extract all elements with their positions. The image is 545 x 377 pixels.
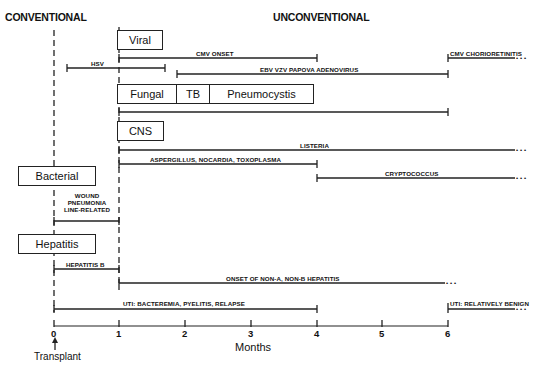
ellipsis-icon: • • •	[516, 175, 526, 182]
pneumonia-line: PNEUMONIA	[54, 199, 120, 206]
ellipsis-icon: • • •	[446, 280, 456, 287]
bacterial-box: Bacterial	[18, 166, 96, 186]
ebv-vzv-label: EBV VZV PAPOVA ADENOVIRUS	[260, 66, 358, 73]
tick-3: 3	[248, 328, 253, 339]
tb-cell: TB	[177, 85, 210, 103]
hepatitis-label: Hepatitis	[36, 238, 79, 250]
non-a-non-b-label: ONSET OF NON-A, NON-B HEPATITIS	[226, 275, 340, 282]
cns-box: CNS	[117, 121, 164, 141]
wound-pneumonia-label: WOUND PNEUMONIA LINE-RELATED	[54, 192, 120, 213]
ellipsis-icon: • • •	[516, 147, 526, 154]
ellipsis-icon: • • •	[516, 55, 526, 62]
fungal-cell: Fungal	[118, 85, 177, 103]
cryptococcus-label: CRYPTOCOCCUS	[385, 170, 438, 177]
aspergillus-label: ASPERGILLUS, NOCARDIA, TOXOPLASMA	[150, 156, 281, 163]
tick-0: 0	[51, 328, 56, 339]
bacterial-label: Bacterial	[36, 170, 79, 182]
line-related-line: LINE-RELATED	[54, 206, 120, 213]
listeria-label: LISTERIA	[300, 142, 329, 149]
hsv-label: HSV	[91, 60, 104, 67]
cmv-chorioretinitis-label: CMV CHORIORETINITIS	[450, 50, 522, 57]
ellipsis-icon: • • •	[516, 306, 526, 313]
tick-1: 1	[116, 328, 121, 339]
pneumocystis-cell: Pneumocystis	[210, 85, 313, 103]
transplant-label: Transplant	[34, 351, 81, 362]
fungal-tb-pneumocystis-box: Fungal TB Pneumocystis	[117, 84, 314, 104]
hepatitis-b-label: HEPATITIS B	[66, 261, 105, 268]
tick-2: 2	[182, 328, 187, 339]
viral-label: Viral	[129, 34, 151, 46]
viral-box: Viral	[117, 30, 163, 50]
cns-label: CNS	[129, 125, 152, 137]
tick-6: 6	[445, 328, 450, 339]
wound-line: WOUND	[54, 192, 120, 199]
hepatitis-box: Hepatitis	[18, 234, 96, 254]
tick-4: 4	[314, 328, 319, 339]
tick-5: 5	[379, 328, 384, 339]
uti-early-label: UTI: BACTEREMIA, PYELITIS, RELAPSE	[123, 300, 245, 307]
cmv-onset-label: CMV ONSET	[196, 50, 234, 57]
axis-title: Months	[235, 341, 271, 353]
tb-label: TB	[186, 88, 200, 100]
pneumocystis-label: Pneumocystis	[227, 88, 295, 100]
fungal-label: Fungal	[130, 88, 164, 100]
